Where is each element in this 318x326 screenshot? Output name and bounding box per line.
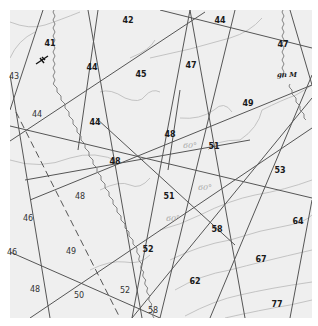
elevation-label: 42 — [122, 17, 133, 25]
elevation-label: 48 — [109, 158, 120, 166]
elevation-label: 53 — [274, 167, 285, 175]
elevation-label: 49 — [66, 248, 76, 256]
dip-angle-label: 60° — [198, 184, 212, 192]
elevation-label: 47 — [277, 41, 288, 49]
elevation-label: 48 — [164, 131, 175, 139]
elevation-label: 41 — [44, 40, 55, 48]
elevation-label: 64 — [292, 218, 303, 226]
elevation-label: 47 — [185, 62, 196, 70]
elevation-label: 52 — [120, 287, 130, 295]
elevation-label: 58 — [211, 226, 222, 234]
geologic-map: 42 44 41 47 43 44 45 47 49 44 44 48 48 5… — [0, 0, 318, 326]
elevation-label: 48 — [30, 286, 40, 294]
elevation-label: 48 — [75, 193, 85, 201]
elevation-label: 46 — [7, 249, 17, 257]
elevation-label: 67 — [255, 256, 266, 264]
elevation-label: 62 — [189, 278, 200, 286]
elevation-label: 77 — [271, 301, 282, 309]
elevation-label: 46 — [23, 215, 33, 223]
formation-annotation: gn M — [277, 71, 297, 78]
elevation-label: 51 — [208, 143, 219, 151]
dip-angle-label: 60° — [183, 142, 197, 150]
elevation-label: 50 — [74, 292, 84, 300]
elevation-label: 44 — [214, 17, 225, 25]
elevation-label: 51 — [163, 193, 174, 201]
map-canvas — [0, 0, 318, 326]
elevation-label: 45 — [135, 71, 146, 79]
elevation-label: 49 — [242, 100, 253, 108]
elevation-label: 52 — [142, 246, 153, 254]
elevation-label: 44 — [89, 119, 100, 127]
elevation-label: 44 — [86, 64, 97, 72]
elevation-label: 58 — [148, 307, 158, 315]
elevation-label: 44 — [32, 111, 42, 119]
elevation-label: 43 — [9, 73, 19, 81]
dip-angle-label: 60° — [166, 215, 180, 223]
